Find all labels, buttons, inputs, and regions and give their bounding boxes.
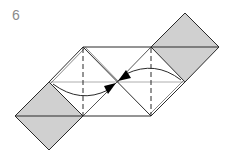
right-lower-edge <box>151 82 185 116</box>
center-diagonal-a-inner <box>85 47 119 82</box>
left-upper-edge-inner <box>51 49 84 83</box>
left-arrow-head <box>104 83 116 94</box>
origami-diagram <box>0 0 233 159</box>
left-upper-edge <box>49 47 83 82</box>
right-lower-edge-inner <box>150 81 183 114</box>
right-arrow-head <box>118 70 131 81</box>
